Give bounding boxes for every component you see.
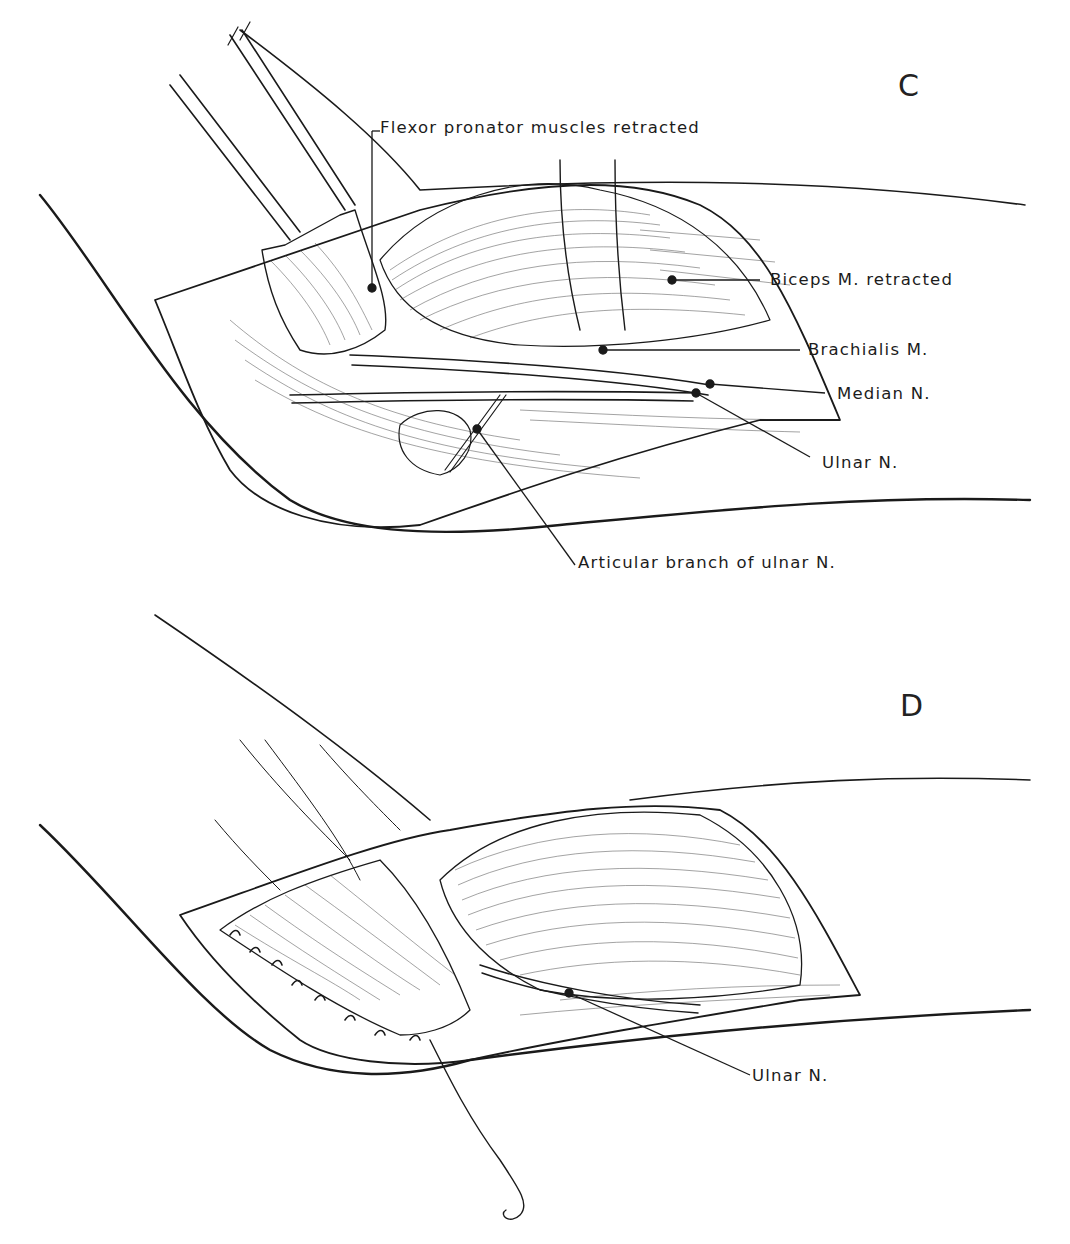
label-brachialis-muscle: Brachialis M. <box>808 340 929 359</box>
arm-outline-upper-d <box>155 615 1030 820</box>
flexor-muscle-d <box>220 860 470 1035</box>
retractor-2 <box>230 30 355 210</box>
ulnar-nerve <box>290 392 695 403</box>
label-flexor-pronator-muscles: Flexor pronator muscles retracted <box>380 118 700 137</box>
articular-branch <box>445 395 506 472</box>
biceps-belly <box>380 184 770 346</box>
arm-outline-lower <box>40 195 1030 532</box>
label-ulnar-nerve-c: Ulnar N. <box>822 453 898 472</box>
flexor-muscle-stump <box>262 210 386 354</box>
arm-outline-lower-d <box>40 825 1030 1074</box>
label-median-nerve: Median N. <box>837 384 931 403</box>
panel-letter-d: D <box>900 688 923 723</box>
retractor-1 <box>170 75 300 240</box>
label-ulnar-nerve-d: Ulnar N. <box>752 1066 828 1085</box>
incision-edge-d <box>180 806 860 1064</box>
interrupted-sutures <box>230 931 420 1041</box>
panel-letter-c: C <box>898 68 919 103</box>
label-articular-branch-ulnar-nerve: Articular branch of ulnar N. <box>578 553 836 572</box>
median-nerve <box>350 355 710 395</box>
muscle-fiber-hatching <box>230 210 820 478</box>
ulnar-nerve-transposed <box>480 965 700 1013</box>
suture-thread <box>430 1040 524 1219</box>
muscle-fiber-hatching-d <box>235 834 840 1015</box>
pronator-belly-d <box>440 812 802 999</box>
panel-d-leaders <box>565 989 750 1075</box>
panel-c-leaders <box>368 131 825 565</box>
label-biceps-muscle: Biceps M. retracted <box>770 270 953 289</box>
